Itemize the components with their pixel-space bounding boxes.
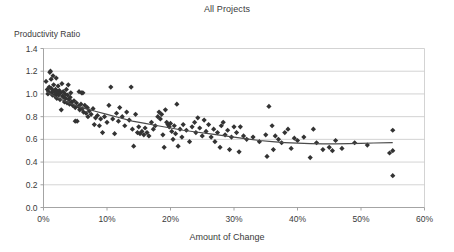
svg-text:40%: 40% bbox=[289, 214, 306, 224]
trendline bbox=[47, 92, 393, 144]
chart-container: All Projects Productivity Ratio Amount o… bbox=[0, 0, 454, 252]
svg-text:0.2: 0.2 bbox=[26, 180, 38, 190]
svg-text:10%: 10% bbox=[98, 214, 115, 224]
scatter-plot: 0.00.20.40.60.81.01.21.4 0%10%20%30%40%5… bbox=[0, 0, 454, 252]
svg-text:0.4: 0.4 bbox=[26, 157, 38, 167]
svg-text:20%: 20% bbox=[162, 214, 179, 224]
y-axis-tick-labels: 0.00.20.40.60.81.01.21.4 bbox=[26, 44, 44, 213]
svg-text:50%: 50% bbox=[352, 214, 369, 224]
svg-text:0.6: 0.6 bbox=[26, 134, 38, 144]
svg-text:1.0: 1.0 bbox=[26, 89, 38, 99]
svg-text:60%: 60% bbox=[416, 214, 433, 224]
svg-text:1.4: 1.4 bbox=[26, 44, 38, 54]
svg-text:0.8: 0.8 bbox=[26, 112, 38, 122]
x-axis-tick-labels: 0%10%20%30%40%50%60% bbox=[37, 208, 433, 224]
svg-text:0%: 0% bbox=[37, 214, 50, 224]
svg-text:0.0: 0.0 bbox=[26, 203, 38, 213]
svg-text:30%: 30% bbox=[225, 214, 242, 224]
svg-text:1.2: 1.2 bbox=[26, 66, 38, 76]
